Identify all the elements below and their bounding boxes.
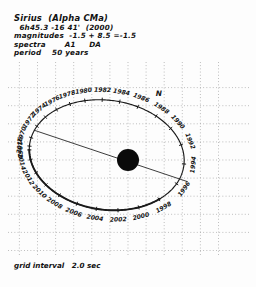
year-label-1994: 1994 (188, 156, 197, 174)
orbit-ellipse-path (29, 100, 184, 211)
north-label: N (156, 89, 163, 98)
orbit-diagram-page: Sirius (Alpha CMa) 6h45.3 -16 41' (2000)… (0, 0, 256, 287)
year-label-2012: 2012 (21, 168, 36, 186)
year-label-1988: 1988 (153, 100, 172, 116)
north-direction-marker: N (156, 89, 163, 98)
year-label-2002: 2002 (110, 215, 127, 223)
orbit-plot: 1968197019721974197619781980198219841986… (0, 0, 256, 287)
year-label-2014: 2014 (17, 153, 28, 171)
year-label-1990: 1990 (170, 113, 187, 131)
line-of-apsides (34, 130, 188, 182)
year-label-1992: 1992 (184, 132, 197, 150)
year-label-2006: 2006 (65, 206, 84, 219)
year-label-1980: 1980 (75, 86, 94, 95)
primary-star-marker (117, 149, 139, 171)
year-label-1986: 1986 (132, 91, 151, 104)
year-label-2000: 2000 (132, 210, 151, 221)
grid-interval-caption: grid interval 2.0 sec (14, 261, 100, 270)
year-label-2004: 2004 (86, 213, 104, 223)
year-label-1982: 1982 (94, 86, 111, 93)
